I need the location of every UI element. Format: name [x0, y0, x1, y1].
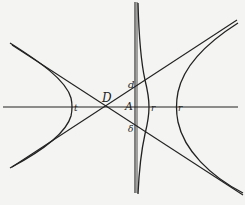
label-A: A: [124, 100, 133, 113]
diagram-canvas: t D A d δ r r: [0, 0, 245, 205]
label-D: D: [101, 91, 112, 105]
hyperbola-diagram: t D A d δ r r: [0, 0, 245, 205]
label-d: d: [128, 79, 134, 90]
right-hyperbola-branch: [177, 23, 244, 193]
asymptote-rising: [12, 20, 237, 167]
label-t: t: [74, 103, 78, 113]
left-hyperbola-branch: [10, 43, 72, 168]
inner-asymptotic-curve: [138, 3, 149, 194]
label-r-inner: r: [151, 103, 156, 113]
label-delta: δ: [128, 124, 133, 134]
label-r-outer: r: [178, 103, 183, 113]
